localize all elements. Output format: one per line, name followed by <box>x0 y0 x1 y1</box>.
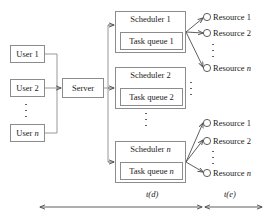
resource-label-bottom-1: Resource 1 <box>213 119 251 128</box>
resource-label-top-1: Resource 1 <box>213 13 251 22</box>
task-queue-box-2[interactable]: Task queue 2 <box>120 88 183 106</box>
schedulers-ellipsis-icon <box>143 113 149 126</box>
schedulern-to-resources-arrows <box>186 123 203 172</box>
scheduler-title-n: Scheduler n <box>116 145 185 154</box>
users-ellipsis-icon <box>23 104 29 117</box>
task-queue-box-n[interactable]: Task queue n <box>120 162 183 180</box>
task-queue-label-n: Task queue n <box>129 167 174 176</box>
timing-label-td: t(d) <box>146 190 158 199</box>
resource-nodes-bottom <box>203 119 210 176</box>
task-queue-box-1[interactable]: Task queue 1 <box>120 32 183 50</box>
scheduler-box-1[interactable]: Scheduler 1 Task queue 1 <box>115 11 186 53</box>
scheduler1-to-resources-arrows <box>186 18 203 67</box>
resource-label-bottom-2: Resource 2 <box>213 137 251 146</box>
resources-bottom-ellipsis-icon <box>210 151 216 164</box>
scheduler-column-ellipsis-icon <box>188 82 194 95</box>
resources-top-ellipsis-icon <box>210 44 216 57</box>
user-label-n: User n <box>16 129 38 138</box>
scheduler-title-2: Scheduler 2 <box>116 71 185 80</box>
task-queue-label-1: Task queue 1 <box>129 37 174 46</box>
user-label-2: User 2 <box>16 84 38 93</box>
user-box-n[interactable]: User n <box>10 124 45 142</box>
scheduler-box-n[interactable]: Scheduler n Task queue n <box>115 141 186 183</box>
user-bus-lines <box>45 54 57 133</box>
diagram-canvas: User 1 User 2 User n Server Scheduler 1 … <box>0 0 269 221</box>
resource-nodes-top <box>203 13 210 71</box>
timing-label-te: t(e) <box>224 190 236 199</box>
user-box-1[interactable]: User 1 <box>10 45 45 63</box>
scheduler-box-2[interactable]: Scheduler 2 Task queue 2 <box>115 67 186 109</box>
server-to-scheduler-arrows <box>108 25 114 162</box>
user-label-1: User 1 <box>16 50 38 59</box>
scheduler-title-1: Scheduler 1 <box>116 15 185 24</box>
resource-label-bottom-n: Resource n <box>213 169 251 178</box>
server-bus-lines <box>104 25 108 162</box>
resource-label-top-2: Resource 2 <box>213 29 251 38</box>
resource-label-top-n: Resource n <box>213 64 251 73</box>
task-queue-label-2: Task queue 2 <box>129 93 174 102</box>
user-box-2[interactable]: User 2 <box>10 79 45 97</box>
server-box[interactable]: Server <box>62 78 104 98</box>
server-label: Server <box>72 84 94 93</box>
